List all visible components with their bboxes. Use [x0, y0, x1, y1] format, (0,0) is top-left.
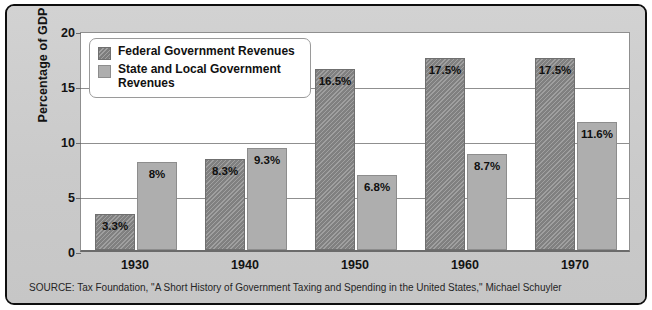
bar-federal-1940[interactable]: 8.3%: [205, 159, 245, 250]
legend-item-state-local: State and Local Government Revenues: [98, 63, 302, 90]
bar-value-label: 16.5%: [319, 75, 352, 87]
bar-value-label: 11.6%: [581, 128, 613, 140]
x-axis-tick-label: 1960: [451, 258, 479, 272]
chart-legend: Federal Government Revenues State and Lo…: [89, 38, 311, 98]
bar-state-local-1970[interactable]: 11.6%: [577, 122, 617, 250]
bar-value-label: 8.7%: [474, 160, 500, 172]
x-axis-tick-label: 1930: [121, 258, 149, 272]
y-axis-tick-label: 20: [61, 26, 75, 40]
bar-group: 17.5%11.6%: [521, 33, 631, 250]
x-axis-tick-label: 1970: [561, 258, 589, 272]
y-axis-tick-label: 10: [61, 136, 75, 150]
bar-value-label: 8%: [149, 168, 166, 180]
bar-federal-1930[interactable]: 3.3%: [95, 214, 135, 250]
bar-group: 17.5%8.7%: [411, 33, 521, 250]
y-axis-tick-label: 0: [68, 246, 75, 260]
y-axis-tick-mark: [76, 253, 81, 254]
legend-label-federal: Federal Government Revenues: [118, 45, 295, 59]
y-axis-tick-label: 5: [68, 191, 75, 205]
legend-swatch-federal-icon: [98, 47, 111, 60]
legend-item-federal: Federal Government Revenues: [98, 45, 302, 60]
bar-state-local-1960[interactable]: 8.7%: [467, 154, 507, 250]
bar-federal-1970[interactable]: 17.5%: [535, 58, 575, 251]
x-axis-tick-label: 1950: [341, 258, 369, 272]
bar-state-local-1950[interactable]: 6.8%: [357, 175, 397, 250]
figure-frame: Percentage of GDP 051015203.3%8%8.3%9.3%…: [5, 4, 647, 305]
bar-value-label: 17.5%: [429, 64, 462, 76]
source-note: SOURCE: Tax Foundation, "A Short History…: [29, 282, 562, 293]
bar-state-local-1930[interactable]: 8%: [137, 162, 177, 250]
y-axis-title: Percentage of GDP: [36, 0, 50, 145]
x-axis-tick-label: 1940: [231, 258, 259, 272]
y-axis-tick-label: 15: [61, 81, 75, 95]
bar-value-label: 9.3%: [254, 154, 280, 166]
bar-state-local-1940[interactable]: 9.3%: [247, 148, 287, 250]
bar-federal-1950[interactable]: 16.5%: [315, 69, 355, 251]
bar-value-label: 8.3%: [212, 165, 238, 177]
bar-value-label: 17.5%: [539, 64, 572, 76]
chart-figure: Percentage of GDP 051015203.3%8%8.3%9.3%…: [0, 0, 652, 310]
bar-value-label: 6.8%: [364, 181, 390, 193]
bar-group: 16.5%6.8%: [301, 33, 411, 250]
legend-label-state-local: State and Local Government Revenues: [118, 63, 302, 90]
bar-federal-1960[interactable]: 17.5%: [425, 58, 465, 251]
legend-swatch-state-local-icon: [98, 65, 111, 78]
bar-value-label: 3.3%: [102, 220, 128, 232]
